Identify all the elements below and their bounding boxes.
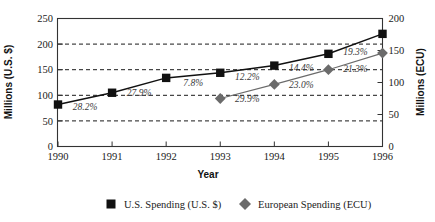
legend-item-label: U.S. Spending (U.S. $) xyxy=(124,199,222,211)
plot-frame xyxy=(58,19,383,147)
y-tick-label-left: 250 xyxy=(37,13,53,24)
y-axis-right-title: Millions (ECU) xyxy=(415,48,426,116)
y-tick-label-right: 200 xyxy=(389,13,405,24)
marker-square-us xyxy=(270,61,278,69)
x-tick-label: 1996 xyxy=(372,151,393,162)
x-tick-label: 1991 xyxy=(102,151,123,162)
pct-label-eu: 21.3% xyxy=(343,64,368,74)
pct-label-us: 27.9% xyxy=(127,88,152,98)
pct-label-eu: 29.9% xyxy=(235,94,260,104)
marker-diamond-eu xyxy=(377,48,388,59)
marker-square-us xyxy=(216,69,224,77)
marker-square-us xyxy=(54,100,62,108)
spending-line-chart: Millions (U.S. $) Millions (ECU) Year 05… xyxy=(0,0,435,222)
marker-square-us xyxy=(162,74,170,82)
marker-diamond-eu xyxy=(215,93,226,104)
y-tick-label-left: 200 xyxy=(37,39,53,50)
y-tick-label-right: 150 xyxy=(389,45,405,56)
y-tick-label-right: 50 xyxy=(389,109,400,120)
chart-container: Millions (U.S. $) Millions (ECU) Year 05… xyxy=(0,0,435,222)
axis-tickmarks xyxy=(58,19,383,147)
marker-diamond-eu xyxy=(269,79,280,90)
y-tick-label-left: 150 xyxy=(37,64,53,75)
legend-item-label: European Spending (ECU) xyxy=(258,199,372,211)
legend-marker-diamond xyxy=(239,198,251,210)
pct-label-eu: 23.0% xyxy=(289,80,314,90)
x-axis-ticks: 1990199119921993199419951996 xyxy=(48,151,394,162)
marker-diamond-eu xyxy=(323,64,334,75)
x-tick-label: 1992 xyxy=(156,151,177,162)
marker-square-us xyxy=(324,50,332,58)
chart-legend: U.S. Spending (U.S. $)European Spending … xyxy=(107,198,372,211)
pct-label-us: 28.2% xyxy=(73,102,98,112)
y-axis-left-ticks: 050100150200250 xyxy=(37,13,53,152)
gridlines xyxy=(58,44,383,121)
x-tick-label: 1994 xyxy=(264,151,286,162)
x-tick-label: 1995 xyxy=(318,151,339,162)
x-tick-label: 1990 xyxy=(48,151,69,162)
y-axis-right-ticks: 050100150200 xyxy=(389,13,405,152)
marker-square-us xyxy=(108,89,116,97)
pct-label-us: 12.2% xyxy=(235,72,260,82)
legend-marker-square xyxy=(107,200,116,209)
x-axis-title: Year xyxy=(197,169,218,180)
pct-label-us: 7.8% xyxy=(183,78,203,88)
data-series-layer xyxy=(54,30,388,109)
y-axis-left-title: Millions (U.S. $) xyxy=(3,45,14,119)
x-tick-label: 1993 xyxy=(210,151,231,162)
y-tick-label-right: 100 xyxy=(389,77,405,88)
marker-square-us xyxy=(378,30,386,38)
y-tick-label-left: 100 xyxy=(37,90,53,101)
pct-label-us: 19.3% xyxy=(343,47,368,57)
y-tick-label-left: 50 xyxy=(43,116,54,127)
pct-label-us: 14.4% xyxy=(289,63,314,73)
